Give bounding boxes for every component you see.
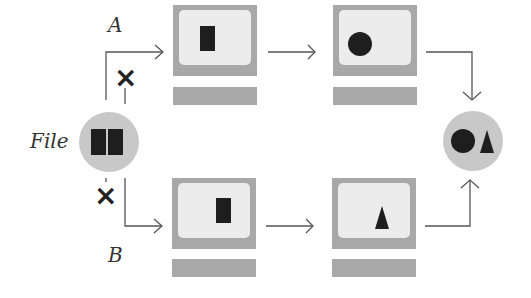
triangle-icon <box>443 111 503 171</box>
monitor-b1-base <box>172 259 256 277</box>
result-node <box>443 111 503 171</box>
monitor-b2-base <box>332 259 416 277</box>
circle-icon <box>348 32 372 56</box>
arrow-file-to-b <box>125 178 161 226</box>
monitor-a1-base <box>173 87 257 105</box>
monitor-b1 <box>172 178 256 249</box>
triangle-icon <box>338 183 410 238</box>
path-b-label: B <box>108 243 123 267</box>
screen <box>179 10 251 65</box>
rectangle-icon <box>216 198 231 223</box>
file-label: File <box>30 129 69 153</box>
monitor-a2-base <box>333 87 417 105</box>
file-part-rect-icon <box>91 129 106 155</box>
screen <box>339 10 411 65</box>
file-part-rect-icon <box>108 129 123 155</box>
screen <box>178 183 250 238</box>
file-node <box>79 112 139 172</box>
path-a-label: A <box>108 13 122 37</box>
screen <box>338 183 410 238</box>
monitor-a1 <box>173 5 257 76</box>
blocked-x-icon-b: × <box>94 182 117 210</box>
rectangle-icon <box>200 26 215 51</box>
monitor-a2 <box>333 5 417 76</box>
monitor-b2 <box>332 178 416 249</box>
blocked-x-icon-a: × <box>114 64 137 92</box>
